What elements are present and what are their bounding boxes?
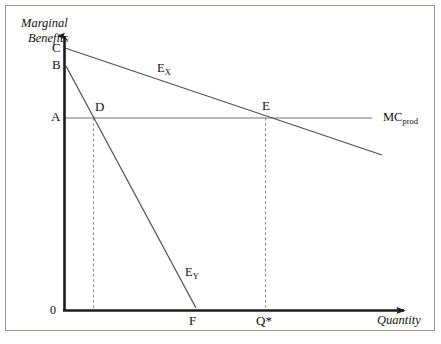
- x-label-qstar: Q*: [256, 314, 272, 327]
- curve-label-ey-base: E: [185, 265, 193, 279]
- curve-label-ex-base: E: [157, 61, 165, 75]
- curve-label-ex-sub: X: [165, 67, 171, 77]
- curve-label-ey-sub: Y: [193, 271, 199, 281]
- y-label-b: B: [52, 58, 61, 71]
- curve-label-mc-sub: prod: [402, 116, 418, 126]
- x-label-f: F: [189, 314, 196, 327]
- ey-curve: [66, 66, 196, 308]
- y-axis-title-line1: Marginal: [21, 17, 68, 30]
- origin-label: 0: [50, 304, 56, 316]
- diagram-page: Marginal Benefits Quantity 0 C B A F Q* …: [0, 0, 441, 344]
- curve-label-mc-base: MC: [383, 110, 402, 124]
- ex-curve: [65, 48, 382, 155]
- y-label-c: C: [52, 41, 61, 54]
- x-axis-title: Quantity: [377, 314, 421, 327]
- point-label-e: E: [262, 99, 270, 112]
- y-label-a: A: [51, 110, 60, 123]
- curve-label-ex: EX: [157, 62, 171, 75]
- point-label-d: D: [95, 100, 104, 113]
- diagram-canvas: [0, 0, 441, 344]
- curve-label-ey: EY: [185, 266, 199, 279]
- y-axis-title-line2: Benefits: [28, 32, 68, 45]
- curve-label-mc: MCprod: [383, 111, 418, 124]
